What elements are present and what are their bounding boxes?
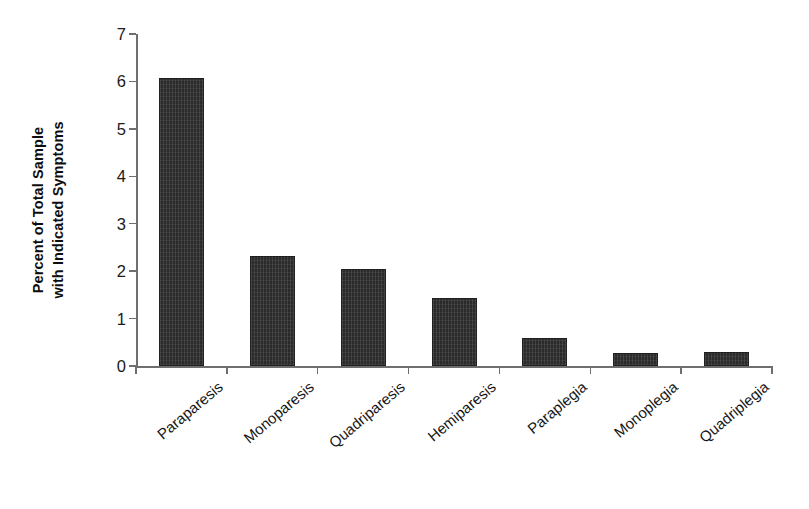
x-axis-label-hemiparesis: Hemiparesis (424, 378, 499, 445)
x-axis-line (136, 366, 772, 368)
x-axis-tick (771, 366, 773, 374)
y-axis-tick-label: 6 (102, 73, 126, 90)
y-axis-title-line-1: Percent of Total Sample (30, 127, 46, 293)
x-axis-label-monoparesis: Monoparesis (240, 378, 317, 446)
y-axis-tick (129, 318, 136, 320)
y-axis-tick-label: 3 (102, 215, 126, 232)
bar-chart-figure: Percent of Total Sample with Indicated S… (0, 0, 809, 509)
x-axis-tick (590, 366, 592, 374)
y-axis-tick (129, 223, 136, 225)
y-axis-tick (129, 270, 136, 272)
x-axis-tick (680, 366, 682, 374)
y-axis-tick (129, 81, 136, 83)
y-axis-tick-label: 5 (102, 121, 126, 138)
plot-area: 01234567 (136, 34, 772, 366)
bar-quadriparesis (341, 269, 386, 366)
x-axis-label-monoplegia: Monoplegia (610, 378, 680, 441)
y-axis-title-text: Percent of Total Sample with Indicated S… (29, 121, 68, 298)
y-axis-title-line-2: with Indicated Symptoms (49, 121, 69, 298)
x-axis-tick (499, 366, 501, 374)
y-axis-line (136, 34, 138, 366)
bar-paraparesis (159, 78, 204, 366)
bar-monoplegia (613, 353, 658, 366)
x-axis-label-paraparesis: Paraparesis (154, 378, 226, 442)
y-axis-tick-label: 4 (102, 168, 126, 185)
y-axis-tick-label: 1 (102, 310, 126, 327)
x-axis-category-labels: ParaparesisMonoparesisQuadriparesisHemip… (136, 378, 809, 508)
x-axis-tick (317, 366, 319, 374)
y-axis-tick-label: 2 (102, 263, 126, 280)
bar-paraplegia (522, 338, 567, 366)
bar-hemiparesis (432, 298, 477, 366)
x-axis-tick (408, 366, 410, 374)
x-axis-tick (135, 366, 137, 374)
y-axis-tick-label: 7 (102, 26, 126, 43)
y-axis-tick (129, 33, 136, 35)
x-axis-label-quadriparesis: Quadriparesis (326, 378, 408, 451)
bar-monoparesis (250, 256, 295, 366)
y-axis-tick (129, 128, 136, 130)
x-axis-label-quadriplegia: Quadriplegia (695, 378, 771, 446)
x-axis-tick (226, 366, 228, 374)
x-axis-label-paraplegia: Paraplegia (524, 378, 590, 437)
y-axis-title: Percent of Total Sample with Indicated S… (14, 60, 84, 360)
y-axis-tick-label: 0 (102, 358, 126, 375)
bar-quadriplegia (704, 352, 749, 366)
y-axis-tick (129, 176, 136, 178)
